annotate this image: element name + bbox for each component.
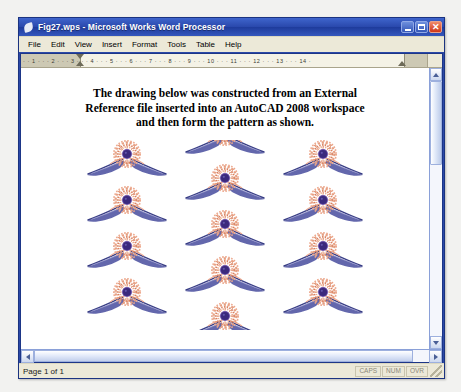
scroll-right-icon[interactable] [429, 350, 442, 363]
heading-line-3: and then form the pattern as shown. [47, 115, 403, 130]
document-page[interactable]: The drawing below was constructed from a… [21, 68, 429, 349]
ruler-row: · · 1 · · · 2 · · · 3 · · · 4 · · · 5 · … [21, 54, 442, 68]
right-indent-marker[interactable] [398, 61, 406, 66]
vertical-scrollbar[interactable] [429, 68, 442, 349]
heading-line-1: The drawing below was constructed from a… [47, 86, 403, 101]
menu-item-format[interactable]: Format [127, 38, 162, 51]
maximize-button[interactable] [415, 21, 428, 33]
page-row: The drawing below was constructed from a… [21, 68, 442, 349]
close-button[interactable]: ✕ [429, 21, 442, 33]
title-bar[interactable]: Fig27.wps - Microsoft Works Word Process… [19, 18, 444, 36]
window-title: Fig27.wps - Microsoft Works Word Process… [38, 22, 401, 32]
status-badge-caps: CAPS [355, 366, 381, 377]
caption-button-group: ✕ [401, 21, 442, 33]
client-area: · · 1 · · · 2 · · · 3 · · · 4 · · · 5 · … [19, 52, 444, 363]
horizontal-ruler[interactable]: · · 1 · · · 2 · · · 3 · · · 4 · · · 5 · … [21, 54, 427, 68]
scroll-left-icon[interactable] [21, 350, 34, 363]
status-badge-num: NUM [382, 366, 405, 377]
menu-item-view[interactable]: View [70, 38, 97, 51]
document-heading: The drawing below was constructed from a… [47, 86, 403, 130]
ornament-svg [21, 140, 429, 330]
left-indent-marker[interactable] [76, 61, 84, 66]
heading-line-2: Reference file inserted into an AutoCAD … [47, 101, 403, 116]
status-bar: Page 1 of 1 CAPS NUM OVR [19, 363, 444, 378]
first-line-indent-marker[interactable] [76, 54, 84, 59]
horizontal-scrollbar-track[interactable] [34, 350, 429, 362]
works-document-icon [23, 22, 34, 33]
horizontal-scrollbar-thumb[interactable] [34, 350, 413, 362]
resize-grip[interactable] [430, 365, 442, 377]
vertical-scrollbar-thumb[interactable] [430, 81, 442, 165]
ruler-corner [427, 54, 442, 68]
minimize-button[interactable] [401, 21, 414, 33]
menu-item-file[interactable]: File [23, 38, 46, 51]
menu-item-tools[interactable]: Tools [162, 38, 191, 51]
menu-item-edit[interactable]: Edit [46, 38, 70, 51]
vertical-scrollbar-track[interactable] [430, 81, 442, 336]
menu-item-table[interactable]: Table [191, 38, 220, 51]
status-badge-ovr: OVR [406, 366, 428, 377]
document-frame: · · 1 · · · 2 · · · 3 · · · 4 · · · 5 · … [20, 53, 443, 363]
application-window: Fig27.wps - Microsoft Works Word Process… [18, 17, 445, 379]
menu-item-help[interactable]: Help [220, 38, 246, 51]
page-indicator: Page 1 of 1 [23, 367, 354, 376]
menu-bar: File Edit View Insert Format Tools Table… [19, 36, 444, 52]
scroll-down-icon[interactable] [430, 336, 442, 349]
menu-item-insert[interactable]: Insert [97, 38, 127, 51]
scroll-up-icon[interactable] [430, 68, 442, 81]
autocad-xref-ornament-pattern[interactable] [21, 140, 429, 330]
horizontal-scrollbar[interactable] [21, 349, 442, 362]
desktop-backdrop: Fig27.wps - Microsoft Works Word Process… [0, 0, 461, 392]
